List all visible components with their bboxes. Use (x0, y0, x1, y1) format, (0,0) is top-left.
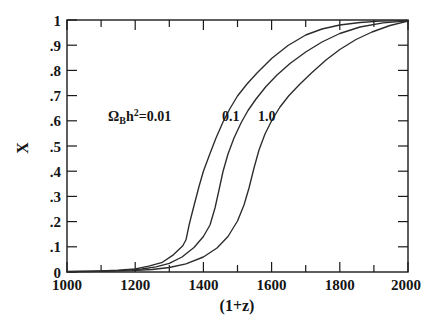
y-axis-label: X (14, 142, 31, 154)
y-tick-label: 0 (54, 265, 62, 281)
annotation-omega-0-01: ΩBh2=0.01 (108, 107, 171, 126)
omega-value-first: =0.01 (139, 109, 171, 124)
y-tick-labels: 0 .1 .2 .3 .4 .5 .6 .7 .8 .9 1 (50, 13, 62, 281)
y-tick-label: .1 (50, 239, 61, 255)
y-tick-label: .6 (50, 113, 62, 129)
chart-svg: 1000 1200 1400 1600 1800 2000 0 .1 .2 .3… (0, 0, 438, 321)
x-tick-label: 1200 (120, 277, 150, 293)
x-tick-label: 1600 (257, 277, 287, 293)
annotation-omega-1-0: 1.0 (258, 109, 276, 124)
y-tick-label: 1 (54, 13, 62, 29)
y-tick-label: .9 (50, 38, 61, 54)
y-tick-label: .8 (50, 63, 61, 79)
x-tick-label: 2000 (391, 277, 421, 293)
x-tick-label: 1800 (325, 277, 355, 293)
y-tick-label: .7 (50, 88, 62, 104)
h-symbol: h (126, 109, 134, 124)
y-tick-label: .5 (50, 139, 61, 155)
annotation-omega-0-1: 0.1 (222, 109, 240, 124)
y-tick-label: .4 (50, 164, 62, 180)
x-axis-label: (1+z) (220, 297, 255, 315)
recombination-ionization-fraction-figure: 1000 1200 1400 1600 1800 2000 0 .1 .2 .3… (0, 0, 438, 321)
omega-symbol: Ω (108, 109, 119, 124)
y-tick-label: .3 (50, 189, 61, 205)
chart-background (0, 0, 438, 321)
x-tick-label: 1400 (188, 277, 218, 293)
y-tick-label: .2 (50, 214, 61, 230)
